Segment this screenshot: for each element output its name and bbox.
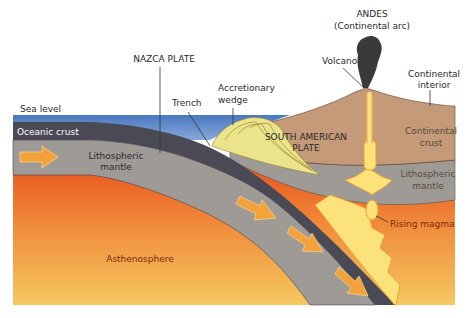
label-lithospheric-mantle-left-2: mantle <box>100 162 132 172</box>
label-lithospheric-mantle-right-2: mantle <box>412 181 444 191</box>
label-lithospheric-mantle-left-1: Lithospheric <box>88 151 143 161</box>
label-continental-interior-1: Continental <box>408 69 460 79</box>
label-continental-arc: (Continental arc) <box>334 21 410 31</box>
label-oceanic-crust: Oceanic crust <box>17 127 79 137</box>
label-trench: Trench <box>171 98 202 108</box>
label-sea-level: Sea level <box>20 104 61 114</box>
label-continental-interior-2: interior <box>418 80 451 90</box>
label-lithospheric-mantle-right-1: Lithospheric <box>400 169 455 179</box>
label-continental-crust-2: crust <box>420 138 443 148</box>
label-accretionary: Accretionary <box>218 83 275 93</box>
label-wedge: wedge <box>218 95 248 105</box>
label-rising-magma: Rising magma <box>390 219 455 229</box>
label-asthenosphere: Asthenosphere <box>106 254 174 264</box>
label-south-american-plate-2: PLATE <box>292 143 320 153</box>
label-volcano: Volcano <box>322 56 358 66</box>
label-nazca-plate: NAZCA PLATE <box>133 54 195 64</box>
subduction-diagram: ANDES (Continental arc) NAZCA PLATE Accr… <box>0 0 469 318</box>
label-andes: ANDES <box>356 9 388 19</box>
label-continental-crust-1: Continental <box>405 126 457 136</box>
label-south-american-plate-1: SOUTH AMERICAN <box>265 132 347 142</box>
volcano-plume <box>357 36 382 88</box>
